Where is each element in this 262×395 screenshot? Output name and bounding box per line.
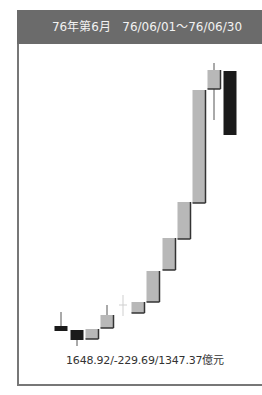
candle — [208, 63, 221, 120]
candle — [132, 302, 145, 313]
candle — [178, 202, 191, 239]
candle — [147, 271, 160, 302]
candle — [163, 238, 176, 270]
chart-caption: 1648.92/-229.69/1347.37億元 — [45, 351, 245, 367]
candle — [55, 312, 68, 331]
candle — [119, 295, 127, 316]
candle — [224, 71, 237, 135]
candlestick-chart — [0, 0, 262, 395]
candle — [193, 90, 206, 203]
candle — [71, 330, 84, 346]
candle — [86, 329, 99, 339]
candle — [101, 305, 114, 328]
